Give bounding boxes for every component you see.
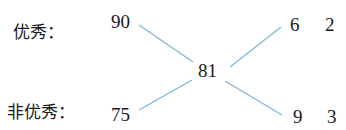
difference-excellent: 6 <box>290 15 300 35</box>
line-81-to-6 <box>230 27 281 67</box>
cross-diagram: 优秀： 90 6 2 81 非优秀： 75 9 3 <box>0 0 346 130</box>
value-excellent: 90 <box>111 12 130 32</box>
line-81-to-9 <box>225 81 282 115</box>
line-90-to-81 <box>139 25 193 62</box>
value-non-excellent: 75 <box>111 105 130 125</box>
ratio-non-excellent: 3 <box>327 107 337 127</box>
row-label-excellent: 优秀： <box>13 22 64 42</box>
difference-non-excellent: 9 <box>293 107 303 127</box>
line-75-to-81 <box>139 80 192 110</box>
row-label-non-excellent: 非优秀： <box>7 102 75 122</box>
center-value: 81 <box>198 61 217 81</box>
ratio-excellent: 2 <box>325 15 335 35</box>
